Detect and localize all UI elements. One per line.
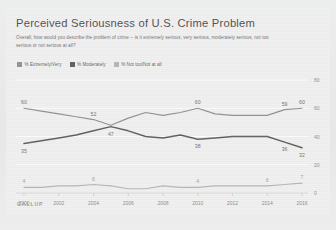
legend-label: % Moderately — [77, 62, 106, 67]
data-point-label: 7 — [301, 174, 304, 180]
y-tick-label: 0 — [314, 190, 317, 196]
source-watermark: GALLUP — [17, 201, 43, 207]
series-lines — [24, 108, 302, 189]
y-axis-tick-labels: 806040200 — [314, 77, 320, 196]
series-line — [24, 108, 302, 125]
chart-title: Perceived Seriousness of U.S. Crime Prob… — [16, 17, 255, 29]
legend-item-extremely-very[interactable]: % Extremely/Very — [17, 62, 62, 67]
y-tick-label: 40 — [314, 134, 320, 140]
line-chart-svg: 806040200 200020022004200620082010201220… — [6, 71, 330, 215]
x-tick-label: 2016 — [296, 200, 307, 206]
x-tick-label: 2014 — [262, 200, 273, 206]
legend-swatch-icon — [70, 62, 75, 67]
series-line — [24, 127, 302, 148]
data-point-label: 52 — [91, 111, 97, 117]
data-point-label: 6 — [266, 177, 269, 183]
x-axis-line — [16, 193, 308, 196]
series-line — [24, 183, 302, 189]
data-point-label: 36 — [282, 146, 288, 152]
x-tick-label: 2002 — [53, 200, 64, 206]
data-point-label: 59 — [282, 101, 288, 107]
x-tick-label: 2006 — [123, 200, 134, 206]
data-point-label: 38 — [195, 143, 201, 149]
y-tick-label: 80 — [314, 77, 320, 83]
data-point-label: 4 — [23, 178, 26, 184]
chart-card: Perceived Seriousness of U.S. Crime Prob… — [6, 7, 330, 215]
data-point-label: 47 — [108, 131, 114, 137]
data-point-label: 6 — [92, 176, 95, 182]
data-point-label: 4 — [196, 178, 199, 184]
data-point-label: 60 — [299, 99, 305, 105]
y-tick-label: 20 — [314, 162, 320, 168]
x-tick-label: 2010 — [192, 200, 203, 206]
x-axis-tick-labels: 200020022004200620082010201220142016 — [18, 200, 307, 206]
chart-subtitle: Overall, how would you describe the prob… — [16, 34, 284, 51]
data-point-label: 60 — [21, 99, 27, 105]
legend-label: % Extremely/Very — [25, 62, 62, 67]
chart-legend: % Extremely/Very % Moderately % Not too/… — [17, 62, 162, 67]
legend-item-moderately[interactable]: % Moderately — [70, 62, 106, 67]
data-point-label: 32 — [299, 152, 305, 158]
chart-plot-area: 806040200 200020022004200620082010201220… — [6, 71, 330, 215]
legend-label: % Not too/Not at all — [121, 62, 162, 67]
data-point-label: 60 — [195, 99, 201, 105]
data-value-labels: 6052605960354738363246467 — [21, 99, 305, 184]
x-tick-label: 2012 — [227, 200, 238, 206]
data-point-label: 35 — [21, 148, 27, 154]
x-tick-label: 2008 — [157, 200, 168, 206]
x-tick-label: 2004 — [88, 200, 99, 206]
legend-swatch-icon — [114, 62, 119, 67]
legend-item-not-too[interactable]: % Not too/Not at all — [114, 62, 162, 67]
y-tick-label: 60 — [314, 105, 320, 111]
legend-swatch-icon — [17, 62, 22, 67]
